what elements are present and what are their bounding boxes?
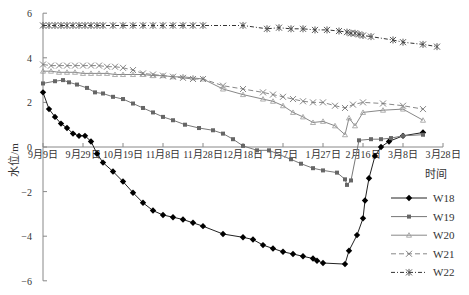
asterisk-marker-icon xyxy=(150,22,156,29)
square-marker-icon xyxy=(401,134,405,138)
y-tick-label: −4 xyxy=(21,231,32,242)
x-tick-label: 3月8日 xyxy=(388,149,418,160)
legend-label: W20 xyxy=(433,229,455,241)
diamond-marker-icon xyxy=(366,175,372,181)
asterisk-marker-icon xyxy=(240,22,246,29)
square-marker-icon xyxy=(267,148,271,152)
x-tick-label: 11月28日 xyxy=(183,149,223,160)
square-marker-icon xyxy=(241,144,245,148)
x-tick-label: 3月28日 xyxy=(426,149,461,160)
diamond-marker-icon xyxy=(342,261,348,267)
square-marker-icon xyxy=(389,136,393,140)
legend-item-w19: W19 xyxy=(391,211,455,223)
diamond-marker-icon xyxy=(354,232,360,238)
line-chart: 6420−2−4−69月9日9月29日10月19日11月8日11月28日12月1… xyxy=(0,0,469,295)
square-marker-icon xyxy=(289,157,293,161)
axes: 6420−2−4−69月9日9月29日10月19日11月8日11月28日12月1… xyxy=(21,8,460,287)
chart-container: 6420−2−4−69月9日9月29日10月19日11月8日11月28日12月1… xyxy=(0,0,469,295)
series-w19 xyxy=(41,78,425,187)
square-marker-icon xyxy=(343,177,347,181)
diamond-marker-icon xyxy=(362,197,368,203)
square-marker-icon xyxy=(171,118,175,122)
square-marker-icon xyxy=(379,137,383,141)
square-marker-icon xyxy=(357,138,361,142)
series-group xyxy=(40,22,440,267)
x-axis-label: 时间 xyxy=(425,168,447,180)
y-tick-label: −2 xyxy=(21,187,32,198)
series-line xyxy=(43,65,423,110)
square-marker-icon xyxy=(421,133,425,137)
x-tick-label: 11月8日 xyxy=(146,149,181,160)
square-marker-icon xyxy=(85,86,89,90)
diamond-marker-icon xyxy=(180,216,186,222)
diamond-marker-icon xyxy=(250,236,256,242)
square-marker-icon xyxy=(197,126,201,130)
series-line xyxy=(43,80,423,185)
legend-label: W21 xyxy=(433,248,454,260)
square-marker-icon xyxy=(183,123,187,127)
square-marker-icon xyxy=(407,215,411,219)
square-marker-icon xyxy=(53,79,57,83)
diamond-marker-icon xyxy=(406,195,412,201)
square-marker-icon xyxy=(67,80,71,84)
diamond-marker-icon xyxy=(200,223,206,229)
legend-item-w22: W22 xyxy=(391,266,454,278)
square-marker-icon xyxy=(349,178,353,182)
square-marker-icon xyxy=(75,83,79,87)
square-marker-icon xyxy=(61,78,65,82)
square-marker-icon xyxy=(311,166,315,170)
square-marker-icon xyxy=(299,162,303,166)
square-marker-icon xyxy=(345,183,349,187)
x-tick-label: 1月7日 xyxy=(268,149,298,160)
diamond-marker-icon xyxy=(190,220,196,226)
square-marker-icon xyxy=(221,132,225,136)
square-marker-icon xyxy=(131,102,135,106)
square-marker-icon xyxy=(121,97,125,101)
square-marker-icon xyxy=(151,110,155,114)
x-marker-icon xyxy=(350,102,356,108)
x-tick-label: 1月27日 xyxy=(306,149,341,160)
x-tick-label: 10月19日 xyxy=(103,149,143,160)
diamond-marker-icon xyxy=(290,251,296,257)
square-marker-icon xyxy=(161,115,165,119)
square-marker-icon xyxy=(93,90,97,94)
diamond-marker-icon xyxy=(240,234,246,240)
y-tick-label: 2 xyxy=(27,97,32,108)
legend-label: W18 xyxy=(433,192,455,204)
diamond-marker-icon xyxy=(40,89,46,95)
square-marker-icon xyxy=(369,137,373,141)
y-tick-label: 6 xyxy=(27,8,32,19)
x-tick-label: 9月9日 xyxy=(28,149,58,160)
square-marker-icon xyxy=(211,128,215,132)
legend-item-w21: W21 xyxy=(391,248,454,260)
legend-item-w20: W20 xyxy=(391,229,455,241)
square-marker-icon xyxy=(111,95,115,99)
legend-item-w18: W18 xyxy=(391,192,455,204)
square-marker-icon xyxy=(335,171,339,175)
legend-label: W22 xyxy=(433,266,454,278)
square-marker-icon xyxy=(321,168,325,172)
square-marker-icon xyxy=(101,91,105,95)
legend: W18W19W20W21W22 xyxy=(391,192,455,278)
square-marker-icon xyxy=(41,81,45,85)
diamond-marker-icon xyxy=(260,242,266,248)
series-w21 xyxy=(40,61,426,112)
square-marker-icon xyxy=(141,106,145,110)
diamond-marker-icon xyxy=(220,231,226,237)
diamond-marker-icon xyxy=(346,247,352,253)
diamond-marker-icon xyxy=(76,133,82,139)
y-tick-label: 4 xyxy=(27,53,32,64)
diamond-marker-icon xyxy=(300,253,306,259)
diamond-marker-icon xyxy=(270,245,276,251)
series-w18 xyxy=(40,89,426,267)
series-line xyxy=(43,26,437,47)
series-w22 xyxy=(40,22,440,50)
diamond-marker-icon xyxy=(280,249,286,255)
asterisk-marker-icon xyxy=(360,32,366,39)
square-marker-icon xyxy=(231,137,235,141)
y-tick-label: −6 xyxy=(21,276,32,287)
y-axis-label: 水位/m xyxy=(7,143,20,177)
diamond-marker-icon xyxy=(320,260,326,266)
diamond-marker-icon xyxy=(360,215,366,221)
legend-label: W19 xyxy=(433,211,455,223)
